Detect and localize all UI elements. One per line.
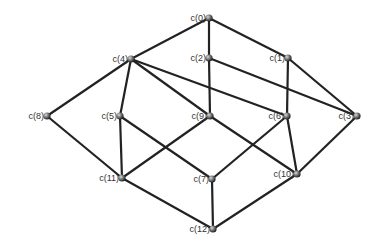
node-label-c12: c(12)	[189, 224, 210, 234]
edge-c5-c11	[120, 116, 122, 178]
node-label-c2: c(2)	[191, 53, 207, 63]
edge-c0-c1	[209, 18, 288, 58]
lattice-graph	[0, 0, 392, 249]
edge-c4-c9	[131, 59, 210, 116]
node-label-c1: c(1)	[270, 53, 286, 63]
node-c11	[118, 174, 125, 181]
edge-c4-c8	[47, 59, 131, 116]
edge-c2-c3	[209, 58, 357, 116]
node-label-c9: c(9)	[192, 111, 208, 121]
node-label-c0: c(0)	[191, 13, 207, 23]
edge-c1-c3	[288, 58, 357, 116]
edge-c6-c10	[287, 116, 297, 174]
edge-c1-c6	[287, 58, 288, 116]
edge-c7-c12	[212, 179, 213, 229]
node-label-c8: c(8)	[29, 111, 45, 121]
graph-nodes	[43, 14, 360, 232]
graph-edges	[47, 18, 357, 229]
edge-c3-c10	[297, 116, 357, 174]
node-label-c5: c(5)	[102, 111, 118, 121]
node-c12	[209, 225, 216, 232]
edge-c8-c11	[47, 116, 122, 178]
node-label-c11: c(11)	[99, 173, 119, 183]
node-label-c4: c(4)	[113, 54, 129, 64]
edge-c11-c12	[122, 178, 213, 229]
node-label-c10: c(10)	[273, 169, 294, 179]
node-c10	[293, 170, 300, 177]
node-label-c6: c(6)	[269, 111, 285, 121]
edge-c2-c9	[209, 58, 210, 116]
node-label-c3: c(3)	[339, 111, 355, 121]
edge-c4-c5	[120, 59, 131, 116]
node-label-c7: c(7)	[194, 174, 210, 184]
edge-c10-c12	[213, 174, 297, 229]
